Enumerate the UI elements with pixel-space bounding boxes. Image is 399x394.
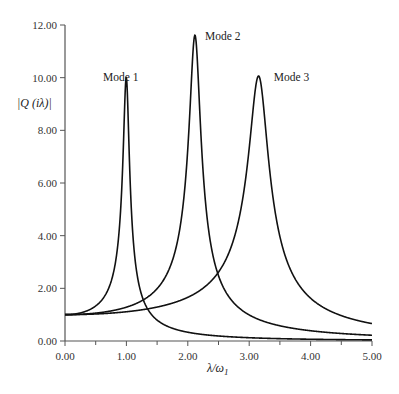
x-tick-label: 4.00 — [301, 350, 321, 362]
x-tick-label: 1.00 — [117, 350, 137, 362]
y-tick-label: 8.00 — [38, 124, 58, 136]
curve-mode-1 — [65, 78, 372, 340]
x-tick-label: 3.00 — [240, 350, 260, 362]
y-tick-label: 2.00 — [38, 282, 58, 294]
y-tick-label: 12.00 — [32, 19, 57, 31]
x-tick-label: 5.00 — [362, 350, 382, 362]
labels: 0.001.002.003.004.005.000.002.004.006.00… — [17, 19, 382, 377]
frequency-response-chart: 0.001.002.003.004.005.000.002.004.006.00… — [0, 0, 399, 394]
x-tick-label: 2.00 — [178, 350, 198, 362]
y-tick-label: 10.00 — [32, 72, 57, 84]
x-axis-title: λ/ω1 — [206, 361, 229, 377]
y-tick-label: 6.00 — [38, 177, 58, 189]
y-tick-label: 0.00 — [38, 335, 58, 347]
x-tick-label: 0.00 — [55, 350, 75, 362]
curve-mode-3 — [65, 76, 372, 324]
annotation-mode-3: Mode 3 — [274, 71, 310, 83]
annotation-mode-1: Mode 1 — [103, 71, 139, 83]
y-axis-title: |Q (iλ)| — [17, 96, 52, 110]
annotation-mode-2: Mode 2 — [205, 30, 241, 42]
y-tick-label: 4.00 — [38, 230, 58, 242]
